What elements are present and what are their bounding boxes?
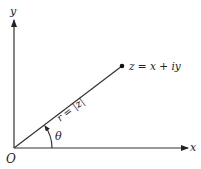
origin-label: O <box>6 152 16 166</box>
complex-plane-diagram: y x O z = x + iy r = |z| θ <box>0 0 201 169</box>
x-axis-label: x <box>190 141 197 154</box>
point-z <box>120 64 125 69</box>
angle-label: θ <box>55 130 62 143</box>
point-label: z = x + iy <box>128 60 182 72</box>
radius-label: r = |z| <box>55 96 87 125</box>
y-axis-label: y <box>9 5 17 18</box>
angle-arc <box>45 126 52 148</box>
